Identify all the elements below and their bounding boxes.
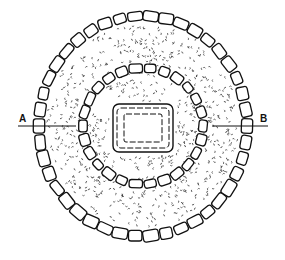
central-cist [113, 104, 173, 152]
cairn-plan-diagram: A B [0, 0, 285, 260]
plan-drawing [0, 0, 285, 260]
section-label-a: A [19, 114, 26, 124]
section-label-b: B [260, 114, 267, 124]
